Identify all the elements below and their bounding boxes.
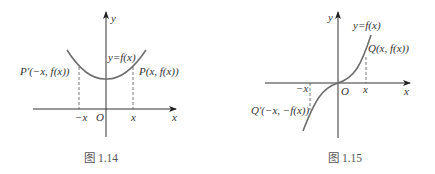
figures-canvas: y x O −x x y=f(x) P′(−x, f(x)) P(x, f(x)…: [0, 0, 435, 174]
tick-pos-x: x: [130, 111, 136, 123]
origin-label: O: [341, 85, 349, 97]
curve-label: y=f(x): [107, 51, 136, 64]
figure-1-15: y x O −x x y=f(x) Q(x, f(x)) Q′(−x, −f(x…: [251, 11, 410, 164]
figure-1-14: y x O −x x y=f(x) P′(−x, f(x)) P(x, f(x)…: [19, 12, 179, 164]
x-axis-label: x: [403, 85, 409, 97]
origin-label: O: [96, 111, 104, 123]
figure-caption: 图 1.15: [328, 152, 362, 164]
point-p-prime-label: P′(−x, f(x)): [19, 65, 70, 78]
point-p-label: P(x, f(x)): [138, 65, 179, 78]
y-axis-label: y: [327, 11, 333, 23]
tick-neg-x: −x: [75, 111, 87, 123]
x-axis-label: x: [171, 111, 177, 123]
y-axis-label: y: [110, 12, 116, 24]
tick-neg-x: −x: [296, 82, 308, 94]
tick-pos-x: x: [362, 83, 368, 95]
point-q-prime-label: Q′(−x, −f(x)): [251, 104, 310, 117]
curve-label: y=f(x): [352, 19, 381, 32]
figure-caption: 图 1.14: [84, 152, 118, 164]
point-q-label: Q(x, f(x)): [368, 42, 409, 55]
